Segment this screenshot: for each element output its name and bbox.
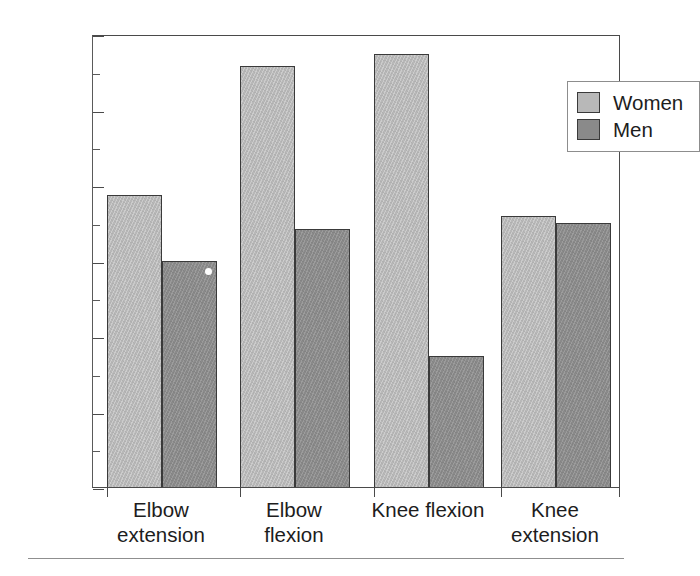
legend: Women Men [567, 81, 700, 152]
y-axis: Percent change 0102030405060 [0, 0, 92, 576]
bottom-divider [28, 558, 624, 559]
bar-women-elbow-flexion[interactable] [240, 66, 295, 487]
x-tick-label-line: flexion [209, 522, 379, 547]
legend-item-men[interactable]: Men [577, 116, 690, 143]
y-tick-mark-0 [93, 489, 104, 490]
x-tick-mark-1 [240, 487, 241, 497]
bar-men-knee-flexion[interactable] [429, 356, 484, 487]
bar-men-elbow-extension[interactable] [162, 261, 217, 488]
bar-group-elbow-flexion [240, 36, 350, 487]
bar-group-knee-flexion [374, 36, 484, 487]
scan-speck [205, 268, 212, 275]
bar-men-knee-extension[interactable] [556, 223, 611, 487]
plot-area [93, 36, 619, 487]
x-tick-mark-2 [374, 487, 375, 497]
bar-group-elbow-extension [107, 36, 217, 487]
bar-men-elbow-flexion[interactable] [295, 229, 350, 487]
legend-swatch-men [577, 119, 600, 140]
x-tick-label-line: Knee [470, 497, 640, 522]
x-tick-label-line: extension [470, 522, 640, 547]
plot-frame: Women Men [92, 35, 620, 488]
bar-women-knee-extension[interactable] [501, 216, 556, 487]
x-tick-label-knee-extension: Kneeextension [470, 497, 640, 547]
bar-women-knee-flexion[interactable] [374, 54, 429, 487]
x-tick-mark-0 [107, 487, 108, 497]
legend-label-women: Women [613, 91, 683, 115]
x-axis-tick-labels: ElbowextensionElbowflexionKnee flexionKn… [92, 497, 620, 559]
legend-swatch-women [577, 92, 600, 113]
bar-women-elbow-extension[interactable] [107, 195, 162, 487]
x-tick-mark-end [619, 487, 620, 497]
x-tick-mark-3 [501, 487, 502, 497]
legend-item-women[interactable]: Women [577, 89, 690, 116]
legend-label-men: Men [613, 118, 653, 142]
